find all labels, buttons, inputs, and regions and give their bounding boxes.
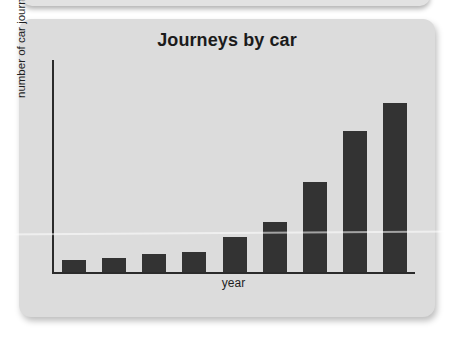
- chart-title: Journeys by car: [19, 30, 435, 51]
- bar: [142, 254, 166, 272]
- chart-card: Journeys by car number of car journeys y…: [19, 19, 435, 317]
- bar: [383, 103, 407, 272]
- bar: [62, 260, 86, 272]
- y-axis-label: number of car journeys: [15, 0, 27, 98]
- bar: [303, 182, 327, 272]
- bar-series: [54, 60, 415, 272]
- bar: [263, 222, 287, 272]
- previous-card-sliver: [22, 0, 430, 6]
- x-axis-label: year: [52, 276, 415, 290]
- bar: [223, 237, 247, 272]
- plot-area: [52, 60, 415, 272]
- bar: [182, 252, 206, 272]
- bar: [102, 258, 126, 272]
- bar: [343, 131, 367, 272]
- x-axis-line: [52, 272, 415, 274]
